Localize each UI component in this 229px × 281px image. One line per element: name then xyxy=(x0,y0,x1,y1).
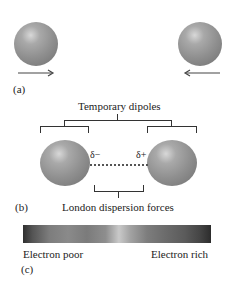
atom-sphere-a-right xyxy=(178,22,222,66)
bracket-right-dipole xyxy=(147,126,197,127)
electron-poor-label: Electron poor xyxy=(23,249,83,260)
arrow-right-icon xyxy=(17,68,57,78)
bracket-bottom-horizontal xyxy=(94,191,144,192)
temporary-dipoles-title: Temporary dipoles xyxy=(78,101,161,112)
bracket-left-dipole-end1 xyxy=(40,126,41,133)
bracket-bottom-stem xyxy=(118,191,119,198)
bracket-top-horizontal xyxy=(64,120,171,121)
atom-sphere-a-left xyxy=(14,22,58,66)
electron-density-gradient-bar xyxy=(23,225,211,243)
atom-sphere-b-left xyxy=(40,140,90,186)
arrow-left-icon xyxy=(181,68,221,78)
atom-sphere-b-right xyxy=(147,140,197,186)
london-dispersion-caption: London dispersion forces xyxy=(62,202,174,213)
panel-label-a: (a) xyxy=(13,84,25,95)
bracket-bottom-end2 xyxy=(143,185,144,192)
panel-label-c: (c) xyxy=(21,264,33,275)
bracket-left-dipole xyxy=(40,126,89,127)
electron-rich-label: Electron rich xyxy=(151,249,208,260)
dispersion-dotted-line xyxy=(90,164,148,166)
bracket-bottom-end1 xyxy=(94,185,95,192)
panel-label-b: (b) xyxy=(15,202,28,213)
delta-minus-label: δ− xyxy=(90,150,100,160)
bracket-right-dipole-end1 xyxy=(147,126,148,133)
delta-plus-label: δ+ xyxy=(136,150,146,160)
bracket-left-dipole-end2 xyxy=(88,126,89,133)
bracket-right-dipole-end2 xyxy=(196,126,197,133)
